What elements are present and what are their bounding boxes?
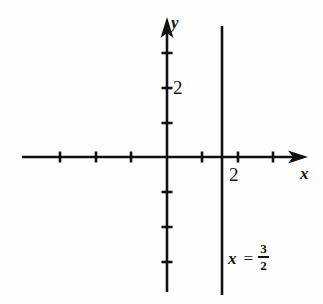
y-axis-label: y <box>171 14 179 31</box>
coordinate-plane-svg <box>0 0 323 304</box>
equation-variable: x <box>228 250 237 267</box>
equation-fraction: 3 2 <box>258 242 269 272</box>
fraction-numerator: 3 <box>259 242 268 256</box>
equation-relation: = <box>244 250 254 267</box>
graph-figure: y x 2 2 x = 3 2 <box>0 0 323 304</box>
x-tick-label-2: 2 <box>229 165 239 184</box>
x-axis-label: x <box>300 165 309 182</box>
fraction-denominator: 2 <box>259 258 268 272</box>
line-equation-annotation: x = 3 2 <box>228 243 269 273</box>
y-tick-label-2: 2 <box>173 78 183 97</box>
